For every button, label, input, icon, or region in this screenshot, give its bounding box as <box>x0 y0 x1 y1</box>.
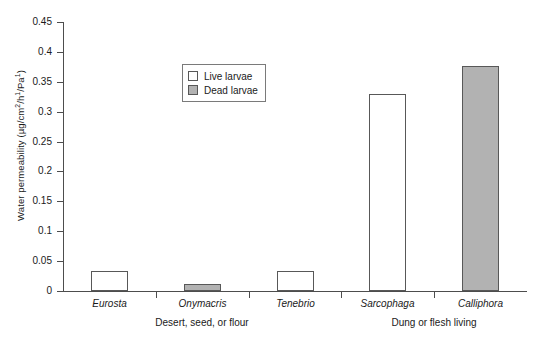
legend-label-dead: Dead larvae <box>204 85 258 96</box>
bar-onymacris <box>184 284 221 291</box>
legend-swatch-dead-icon <box>188 85 198 95</box>
y-axis-tick-label: 0.15 <box>0 196 52 206</box>
y-axis-tick <box>57 52 63 53</box>
y-axis-tick <box>57 201 63 202</box>
x-axis-category-label-tenebrio: Tenebrio <box>249 297 342 310</box>
y-axis-tick-label: 0 <box>0 286 52 296</box>
bar-calliphora <box>462 66 499 291</box>
y-axis-tick <box>57 112 63 113</box>
bar-sarcophaga <box>369 94 406 291</box>
y-axis-tick-label: 0.05 <box>0 256 52 266</box>
y-axis-tick <box>57 261 63 262</box>
y-axis-tick <box>57 171 63 172</box>
y-axis-tick <box>57 142 63 143</box>
y-axis-tick <box>57 22 63 23</box>
legend-item-dead: Dead larvae <box>188 83 258 97</box>
legend-swatch-live-icon <box>188 71 198 81</box>
x-axis-category-label-calliphora: Calliphora <box>434 297 527 310</box>
y-axis-title-mid-h: /h <box>15 96 26 104</box>
x-axis-line <box>63 291 527 292</box>
legend-item-live: Live larvae <box>188 69 258 83</box>
bar-tenebrio <box>277 271 314 291</box>
y-axis-tick <box>57 231 63 232</box>
x-axis-category-label-eurosta: Eurosta <box>63 297 156 310</box>
y-axis-title-suffix: ) <box>15 70 26 73</box>
y-axis-tick-label: 0.1 <box>0 226 52 236</box>
y-axis-tick <box>57 291 63 292</box>
x-axis-category-label-sarcophaga: Sarcophaga <box>341 297 434 310</box>
x-axis-group-label-1: Dung or flesh living <box>324 316 537 329</box>
y-axis-tick-label: 0.35 <box>0 77 52 87</box>
chart-legend: Live larvae Dead larvae <box>182 64 266 102</box>
water-permeability-bar-chart: Water permeability (µg/cm2/h1/Pa1) 00.05… <box>0 0 537 341</box>
y-axis-title-sup-h1: 1 <box>14 92 21 96</box>
y-axis-tick-label: 0.3 <box>0 107 52 117</box>
x-axis-category-label-onymacris: Onymacris <box>156 297 249 310</box>
y-axis-tick <box>57 82 63 83</box>
y-axis-tick-label: 0.2 <box>0 166 52 176</box>
x-axis-group-label-0: Desert, seed, or flour <box>92 316 312 329</box>
y-axis-tick-label: 0.4 <box>0 47 52 57</box>
legend-label-live: Live larvae <box>204 71 252 82</box>
y-axis-tick-label: 0.45 <box>0 17 52 27</box>
y-axis-tick-label: 0.25 <box>0 137 52 147</box>
bar-eurosta <box>91 271 128 291</box>
y-axis-line <box>63 22 64 292</box>
